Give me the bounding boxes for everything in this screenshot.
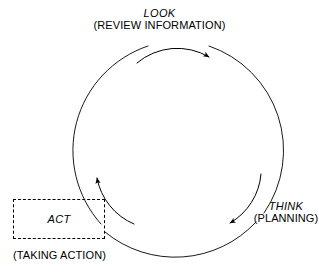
stage-look-title: LOOK	[0, 7, 319, 19]
flow-arrow-look-to-think	[137, 48, 209, 63]
stage-think-subtitle: (PLANNING)	[252, 212, 319, 224]
cycle-flow-arrows	[97, 48, 261, 224]
stage-act-subtitle: (TAKING ACTION)	[13, 249, 106, 261]
stage-think-title: THINK	[252, 200, 319, 212]
stage-act-subtitle-wrap: (TAKING ACTION)	[7, 245, 112, 263]
stage-label-look: LOOK (REVIEW INFORMATION)	[0, 7, 319, 32]
stage-look-subtitle: (REVIEW INFORMATION)	[0, 19, 319, 31]
stage-label-think: THINK (PLANNING)	[252, 200, 319, 225]
stage-act-box: ACT	[13, 199, 105, 239]
stage-act-title: ACT	[48, 213, 71, 225]
cycle-ring-arc-act-look	[73, 46, 148, 224]
cycle-ring-arc-think-act	[105, 222, 256, 257]
cycle-diagram: LOOK (REVIEW INFORMATION) THINK (PLANNIN…	[0, 0, 319, 278]
cycle-ring-arc-look-think	[209, 46, 284, 213]
